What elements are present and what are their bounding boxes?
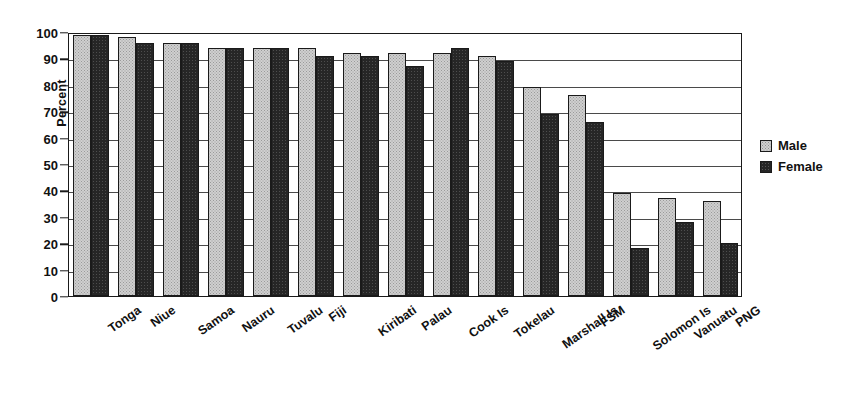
x-tick-label: Fiji [326, 303, 349, 325]
legend-label: Male [778, 138, 807, 153]
x-tick-label: Tuvalu [285, 303, 325, 337]
x-tick-label: FSM [598, 303, 628, 330]
legend-item-male: Male [760, 138, 823, 153]
x-tick-label: Cook Is [466, 303, 511, 340]
x-tick-label: Nauru [240, 303, 278, 335]
x-tick-label: Tokelau [511, 303, 557, 341]
legend-item-female: Female [760, 159, 823, 174]
x-tick-label: PNG [733, 303, 763, 330]
male-swatch-icon [760, 140, 772, 152]
female-swatch-icon [760, 161, 772, 173]
x-tick-label: Niue [148, 303, 178, 330]
x-tick-label: Samoa [196, 303, 238, 338]
chart-legend: MaleFemale [760, 138, 823, 180]
legend-label: Female [778, 159, 823, 174]
x-tick-label: Tonga [105, 303, 143, 335]
bar-chart: Percent 1009080706050403020100 TongaNiue… [0, 0, 846, 393]
x-tick-label: Kiribati [376, 303, 419, 339]
x-axis-labels: TongaNiueSamoaNauruTuvaluFijiKiribatiPal… [0, 0, 846, 393]
x-tick-label: Palau [419, 303, 454, 334]
